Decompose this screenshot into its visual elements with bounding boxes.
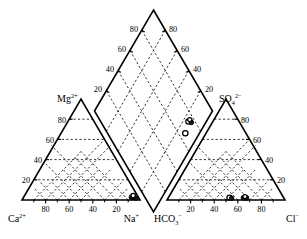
anion-bottom-tick-20: 20: [187, 205, 195, 214]
label-ca-sup: 2+: [19, 212, 26, 219]
diamond-left-tick-20: 20: [94, 85, 102, 94]
label-mg-text: Mg: [57, 93, 71, 104]
diamond-left-tick-60: 60: [118, 45, 126, 54]
diamond-right-tick-20: 20: [205, 85, 213, 94]
label-so4-text: SO: [219, 93, 232, 104]
diamond-right-tick-80: 80: [169, 25, 177, 34]
diamond-left-tick-80: 80: [130, 25, 138, 34]
cation-bottom-tick-60: 60: [65, 205, 73, 214]
label-ca-text: Ca: [8, 213, 20, 224]
label-hco3-sub: 3: [175, 219, 178, 226]
anion-right-tick-60: 60: [253, 136, 261, 145]
label-so4-sup: 2−: [235, 92, 242, 99]
anion-right-tick-20: 20: [277, 176, 285, 185]
cation-left-tick-60: 60: [46, 136, 54, 145]
label-hco3: HCO3−: [154, 212, 182, 225]
cation-left-tick-80: 80: [58, 116, 66, 125]
label-cl-text: Cl: [286, 213, 296, 224]
diamond-left-tick-40: 40: [106, 65, 114, 74]
anion-bottom-tick-60: 60: [234, 205, 242, 214]
piper-diagram-figure: .outline { fill:none; stroke:#000; strok…: [0, 0, 307, 239]
anion-bottom-tick-40: 40: [210, 205, 218, 214]
label-na-sup: +: [135, 212, 139, 219]
label-cl-sup: −: [295, 212, 299, 219]
cation-left-tick-40: 40: [34, 156, 42, 165]
diamond-right-tick-40: 40: [193, 65, 201, 74]
label-hco3-text: HCO: [154, 213, 175, 224]
anion-right-tick-40: 40: [265, 156, 273, 165]
anion-bottom-tick-80: 80: [257, 205, 265, 214]
label-mg-sup: 2+: [71, 92, 78, 99]
data-point: [229, 196, 233, 200]
label-hco3-sup: −: [178, 212, 182, 219]
data-point: [243, 195, 247, 199]
data-point: [188, 118, 192, 122]
data-point: [183, 131, 188, 136]
data-point: [134, 196, 138, 200]
cation-bottom-tick-20: 20: [112, 205, 120, 214]
piper-diagram-canvas: .outline { fill:none; stroke:#000; strok…: [0, 0, 307, 239]
cation-bottom-tick-80: 80: [42, 205, 50, 214]
diamond-right-tick-60: 60: [181, 45, 189, 54]
cation-bottom-tick-40: 40: [89, 205, 97, 214]
anion-right-tick-80: 80: [241, 116, 249, 125]
cation-left-tick-20: 20: [22, 176, 30, 185]
label-na-text: Na: [124, 213, 136, 224]
